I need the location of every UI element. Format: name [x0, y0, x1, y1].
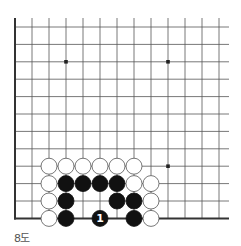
white-stone	[75, 158, 91, 174]
go-board: 1	[0, 0, 241, 246]
black-stone	[126, 210, 142, 226]
white-stone	[126, 158, 142, 174]
black-stone	[109, 176, 125, 192]
move-number-label: 1	[96, 212, 104, 225]
white-stone	[41, 158, 57, 174]
white-stone	[143, 210, 159, 226]
black-stone	[58, 193, 74, 209]
white-stone	[41, 176, 57, 192]
diagram-caption: 8도	[14, 229, 30, 245]
star-point	[166, 60, 170, 64]
black-stone	[58, 210, 74, 226]
black-stone	[92, 176, 108, 192]
white-stone	[58, 158, 74, 174]
black-stone: 1	[92, 210, 108, 226]
black-stone	[58, 176, 74, 192]
white-stone	[143, 193, 159, 209]
white-stone	[126, 176, 142, 192]
black-stone	[109, 193, 125, 209]
black-stone	[75, 176, 91, 192]
white-stone	[41, 210, 57, 226]
white-stone	[41, 193, 57, 209]
white-stone	[109, 158, 125, 174]
black-stone	[126, 193, 142, 209]
star-point	[166, 164, 170, 168]
white-stone	[143, 176, 159, 192]
white-stone	[92, 158, 108, 174]
star-point	[64, 60, 68, 64]
